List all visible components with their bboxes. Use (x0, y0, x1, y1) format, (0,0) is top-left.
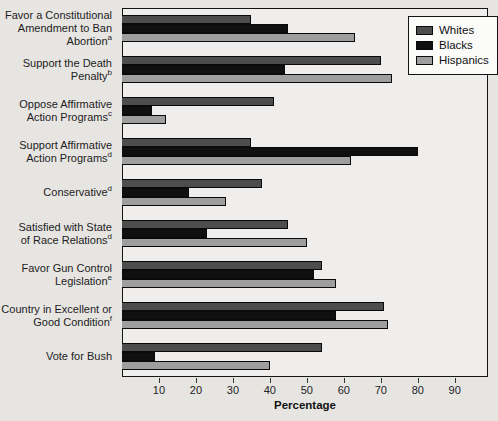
category-label-footnote: f (110, 314, 112, 323)
x-tick-label: 70 (375, 384, 387, 396)
x-tick-label: 20 (190, 384, 202, 396)
category-label: Oppose AffirmativeAction Programsc (19, 98, 116, 124)
x-axis-tick-marks (122, 377, 488, 383)
bar-blacks-3 (122, 147, 418, 156)
x-tick-mark (307, 378, 308, 383)
bar-whites-4 (122, 179, 262, 188)
bar-hispanics-8 (122, 361, 270, 370)
category-label: Support AffirmativeAction Programsd (19, 139, 116, 165)
x-tick-label: 80 (412, 384, 424, 396)
category-label-row: Vote for Bush (0, 336, 116, 377)
category-label-footnote: d (108, 232, 112, 241)
bar-group (122, 336, 488, 377)
bar-whites-0 (122, 15, 251, 24)
category-label: Country in Excellent orGood Conditionf (1, 303, 116, 329)
legend-label-hispanics: Hispanics (439, 54, 489, 67)
bar-hispanics-5 (122, 238, 307, 247)
bar-whites-2 (122, 97, 274, 106)
x-tick-label: 90 (449, 384, 461, 396)
x-tick-label: 60 (338, 384, 350, 396)
x-tick-mark (233, 378, 234, 383)
category-label-footnote: d (108, 150, 112, 159)
category-label-row: Oppose AffirmativeAction Programsc (0, 90, 116, 131)
category-label-footnote: d (108, 184, 112, 193)
legend-item-blacks: Blacks (416, 39, 489, 52)
legend-swatch-blacks (416, 41, 433, 50)
category-label-row: Favor a ConstitutionalAmendment to BanAb… (0, 8, 116, 49)
x-axis-title: Percentage (122, 399, 488, 411)
category-label: Favor Gun ControlLegislatione (22, 262, 116, 288)
category-label-footnote: b (108, 68, 112, 77)
bar-whites-6 (122, 261, 322, 270)
legend: Whites Blacks Hispanics (408, 16, 498, 75)
category-label-row: Conservatived (0, 172, 116, 213)
x-tick-mark (159, 378, 160, 383)
legend-swatch-hispanics (416, 56, 433, 65)
bar-group (122, 213, 488, 254)
category-label: Conservatived (43, 186, 116, 199)
bar-whites-5 (122, 220, 288, 229)
bar-whites-3 (122, 138, 251, 147)
bar-blacks-0 (122, 24, 288, 33)
x-tick-mark (196, 378, 197, 383)
bar-hispanics-7 (122, 320, 388, 329)
bar-blacks-1 (122, 65, 285, 74)
category-label: Favor a ConstitutionalAmendment to BanAb… (5, 9, 116, 48)
bar-whites-8 (122, 343, 322, 352)
bar-blacks-2 (122, 106, 152, 115)
bar-hispanics-2 (122, 115, 166, 124)
bar-hispanics-6 (122, 279, 336, 288)
category-label-footnote: a (108, 33, 112, 42)
bar-group (122, 90, 488, 131)
category-labels: Favor a ConstitutionalAmendment to BanAb… (0, 8, 116, 377)
bar-hispanics-0 (122, 33, 355, 42)
bar-blacks-5 (122, 229, 207, 238)
bar-group (122, 254, 488, 295)
legend-item-whites: Whites (416, 24, 489, 37)
bar-group (122, 172, 488, 213)
legend-label-blacks: Blacks (439, 39, 473, 52)
bar-whites-1 (122, 56, 381, 65)
bar-group (122, 295, 488, 336)
bar-hispanics-4 (122, 197, 226, 206)
bar-blacks-6 (122, 270, 314, 279)
x-tick-label: 30 (227, 384, 239, 396)
x-tick-mark (418, 378, 419, 383)
category-label-row: Satisfied with Stateof Race Relationsd (0, 213, 116, 254)
bar-hispanics-1 (122, 74, 392, 83)
category-label: Support the DeathPenaltyb (23, 57, 116, 83)
x-tick-mark (455, 378, 456, 383)
category-label-row: Support AffirmativeAction Programsd (0, 131, 116, 172)
bar-hispanics-3 (122, 156, 351, 165)
bar-blacks-4 (122, 188, 189, 197)
category-label: Satisfied with Stateof Race Relationsd (18, 221, 116, 247)
x-tick-mark (381, 378, 382, 383)
bar-whites-7 (122, 302, 384, 311)
x-axis-tick-labels: 102030405060708090 (122, 384, 488, 397)
category-label-row: Favor Gun ControlLegislatione (0, 254, 116, 295)
category-label-footnote: e (108, 273, 112, 282)
x-tick-mark (270, 378, 271, 383)
bar-blacks-7 (122, 311, 336, 320)
legend-item-hispanics: Hispanics (416, 54, 489, 67)
x-tick-mark (344, 378, 345, 383)
category-label-row: Support the DeathPenaltyb (0, 49, 116, 90)
x-tick-label: 40 (264, 384, 276, 396)
category-label-row: Country in Excellent orGood Conditionf (0, 295, 116, 336)
x-tick-label: 10 (153, 384, 165, 396)
legend-swatch-whites (416, 26, 433, 35)
bar-group (122, 131, 488, 172)
category-label: Vote for Bush (46, 350, 116, 363)
category-label-footnote: c (108, 109, 112, 118)
bar-blacks-8 (122, 352, 155, 361)
x-tick-label: 50 (301, 384, 313, 396)
legend-label-whites: Whites (439, 24, 474, 37)
